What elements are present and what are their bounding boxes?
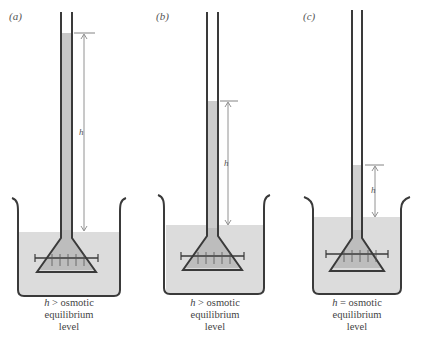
solution-column: [353, 165, 361, 235]
panel-a: (a) h h > osmotic equilibrium level: [0, 0, 140, 340]
panel-label: (b): [156, 10, 169, 22]
height-label: h: [371, 185, 376, 195]
panel-c: (c) h h = osmotic equilibrium level: [280, 0, 420, 340]
osmometer-b-drawing: [140, 0, 280, 300]
panel-caption: h = osmotic equilibrium level: [302, 297, 412, 333]
panel-caption: h > osmotic equilibrium level: [160, 297, 270, 333]
panel-b: (b) h h > osmotic equilibrium level: [140, 0, 280, 340]
solution-column: [208, 101, 217, 236]
panel-caption: h > osmotic equilibrium level: [14, 297, 124, 333]
solution-column: [62, 33, 71, 238]
osmometer-c-drawing: [280, 0, 421, 300]
height-label: h: [79, 127, 84, 137]
panel-label: (c): [303, 10, 315, 22]
panel-label: (a): [9, 10, 22, 22]
height-label: h: [224, 158, 229, 168]
osmometer-a-drawing: [0, 0, 140, 300]
osmosis-figure: (a) h h > osmotic equilibrium level: [0, 0, 421, 340]
